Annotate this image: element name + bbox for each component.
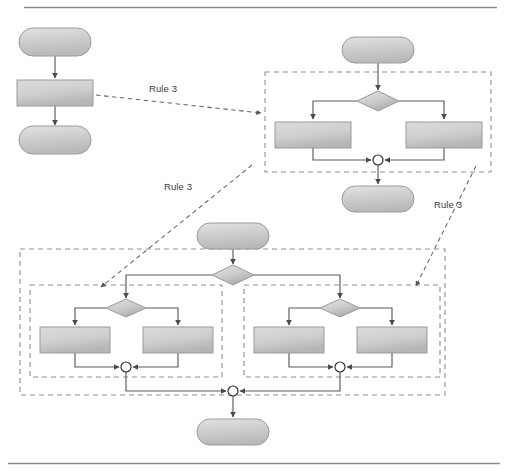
flow-nodes <box>17 28 482 445</box>
node-merge-3-final[interactable] <box>228 386 238 396</box>
node-decision-3-left[interactable] <box>106 299 146 317</box>
node-start-2[interactable] <box>342 37 414 63</box>
node-task-3-left-a[interactable] <box>40 327 110 353</box>
node-decision-3-right[interactable] <box>320 299 360 317</box>
edge-dec3L-task3La <box>75 308 106 325</box>
node-task-2a[interactable] <box>275 122 351 148</box>
node-task-3-right-b[interactable] <box>357 327 427 353</box>
rule-arrow-1 <box>96 95 261 113</box>
edge-task3Ra-merge3R <box>289 353 333 367</box>
node-start-1[interactable] <box>19 28 91 56</box>
node-end-2[interactable] <box>342 186 414 212</box>
diagram-canvas: Rule 3 Rule 3 Rule 3 <box>0 0 507 472</box>
edge-dec3L-task3Lb <box>146 308 178 325</box>
workflow-refinement-diagram: Rule 3 Rule 3 Rule 3 <box>0 0 507 472</box>
node-merge-3-right[interactable] <box>335 362 345 372</box>
node-end-1[interactable] <box>19 126 91 154</box>
node-end-3[interactable] <box>197 419 269 445</box>
edge-dec2-task2a <box>313 101 357 119</box>
edge-task3La-merge3L <box>75 353 119 367</box>
node-merge-3-left[interactable] <box>121 362 131 372</box>
edge-dec3R-task3Ra <box>289 308 320 325</box>
edge-dec3-dec3R <box>254 275 340 298</box>
node-task-2b[interactable] <box>406 122 482 148</box>
node-task-3-right-a[interactable] <box>254 327 324 353</box>
edge-task3Rb-merge3R <box>347 353 392 367</box>
rule-arrow-3 <box>416 166 476 286</box>
rule-label-1: Rule 3 <box>149 83 177 94</box>
rule-label-3: Rule 3 <box>434 199 462 210</box>
node-start-3[interactable] <box>197 223 269 249</box>
edge-task2a-merge2 <box>313 148 371 160</box>
node-merge-2[interactable] <box>373 155 383 165</box>
rule-label-2: Rule 3 <box>164 181 192 192</box>
edge-dec3-dec3L <box>126 275 212 298</box>
edge-merge3R-merge3 <box>240 372 340 391</box>
edge-task2b-merge2 <box>385 148 444 160</box>
node-decision-2[interactable] <box>357 91 399 111</box>
edge-dec3R-task3Rb <box>360 308 392 325</box>
edge-task3Lb-merge3L <box>133 353 178 367</box>
edge-merge3L-merge3 <box>126 372 226 391</box>
node-task-1[interactable] <box>17 80 93 106</box>
node-task-3-left-b[interactable] <box>143 327 213 353</box>
edge-dec2-task2b <box>399 101 444 119</box>
node-decision-3-root[interactable] <box>212 265 254 285</box>
